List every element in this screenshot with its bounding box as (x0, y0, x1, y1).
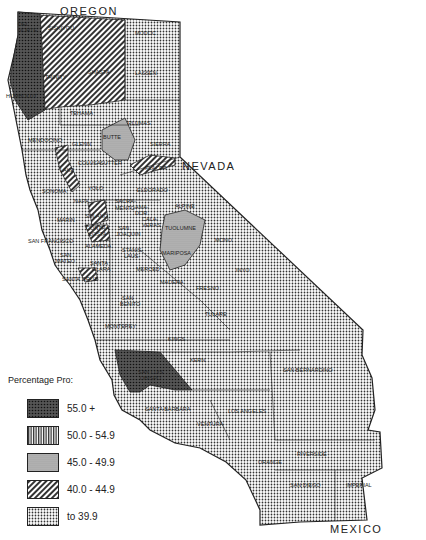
svg-text:SAN BERNARDINO: SAN BERNARDINO (283, 367, 333, 373)
swatch-dense-icon (27, 399, 59, 418)
swatch-vertical-lines-icon (27, 426, 59, 445)
svg-text:MENDOCINO: MENDOCINO (28, 137, 63, 143)
swatch-fine-gray-icon (27, 453, 59, 472)
svg-text:SAN DIEGO: SAN DIEGO (290, 482, 321, 488)
svg-text:LAUS: LAUS (124, 253, 139, 259)
svg-text:MARIPOSA: MARIPOSA (162, 250, 191, 256)
svg-text:CRUZ: CRUZ (82, 276, 98, 282)
svg-text:MARIN: MARIN (57, 217, 75, 223)
svg-text:NAPA: NAPA (74, 198, 89, 204)
svg-text:SHASTA: SHASTA (88, 69, 110, 75)
svg-text:GLENN: GLENN (72, 141, 91, 147)
svg-text:VENTURA: VENTURA (197, 421, 224, 427)
nevada-label: NEVADA (182, 160, 235, 172)
svg-text:COSTA: COSTA (88, 231, 107, 237)
svg-text:MATEO: MATEO (56, 258, 76, 264)
legend-title: Percentage Pro: (8, 375, 168, 385)
svg-text:SISKIYOU: SISKIYOU (48, 25, 74, 31)
svg-text:LASSEN: LASSEN (135, 70, 157, 76)
svg-text:ORANGE: ORANGE (258, 459, 282, 465)
legend: Percentage Pro: 55.0 + 50.0 - 54.9 45.0 … (8, 375, 168, 530)
svg-text:LOS ANGELES: LOS ANGELES (228, 408, 267, 414)
svg-text:BENITO: BENITO (120, 301, 141, 307)
legend-item-55-plus: 55.0 + (27, 395, 168, 422)
svg-text:ELDORADO: ELDORADO (137, 187, 169, 193)
oregon-label: OREGON (60, 5, 118, 17)
svg-text:BUTTE: BUTTE (103, 134, 121, 140)
legend-label: 55.0 + (67, 403, 95, 414)
svg-text:MONTEREY: MONTEREY (105, 323, 137, 329)
svg-text:TULARE: TULARE (205, 311, 227, 317)
legend-label: 50.0 - 54.9 (67, 430, 115, 441)
svg-text:MERCED: MERCED (136, 266, 160, 272)
legend-item-40-44: 40.0 - 44.9 (27, 476, 168, 503)
svg-text:PLUMAS: PLUMAS (128, 120, 151, 126)
svg-text:SIERRA: SIERRA (150, 141, 171, 147)
svg-text:LAKE: LAKE (60, 167, 74, 173)
svg-text:COLUSA: COLUSA (78, 160, 101, 166)
legend-label: 40.0 - 44.9 (67, 484, 115, 495)
svg-text:TUOLUMNE: TUOLUMNE (165, 225, 196, 231)
svg-text:YOLO: YOLO (88, 185, 104, 191)
svg-text:SOLANO: SOLANO (85, 213, 109, 219)
legend-item-to-39: to 39.9 (27, 503, 168, 530)
svg-text:MONO: MONO (215, 237, 233, 243)
svg-text:FRESNO: FRESNO (196, 285, 220, 291)
svg-text:IMPERIAL: IMPERIAL (346, 482, 372, 488)
svg-text:PLACER: PLACER (145, 165, 167, 171)
svg-text:NORTE: NORTE (18, 27, 37, 33)
svg-text:INYO: INYO (236, 267, 250, 273)
svg-text:MADERA: MADERA (160, 279, 184, 285)
svg-text:MODOC: MODOC (135, 30, 156, 36)
svg-text:MENTO: MENTO (115, 205, 135, 211)
svg-text:SANTA: SANTA (62, 276, 80, 282)
svg-text:KINGS: KINGS (168, 336, 185, 342)
svg-text:ALAMEDA: ALAMEDA (85, 243, 112, 249)
svg-text:KERN: KERN (190, 357, 205, 363)
legend-item-50-54: 50.0 - 54.9 (27, 422, 168, 449)
legend-label: 45.0 - 49.9 (67, 457, 115, 468)
svg-text:HUMBOLDT: HUMBOLDT (6, 93, 38, 99)
svg-text:TEHAMA: TEHAMA (70, 110, 93, 116)
swatch-dots-icon (27, 507, 59, 526)
svg-text:SUTTER: SUTTER (100, 160, 122, 166)
svg-text:ALPINE: ALPINE (175, 203, 195, 209)
svg-text:VERAS: VERAS (142, 222, 161, 228)
legend-item-45-49: 45.0 - 49.9 (27, 449, 168, 476)
legend-label: to 39.9 (67, 511, 98, 522)
svg-text:SAN FRANCISCO: SAN FRANCISCO (28, 238, 74, 244)
svg-text:TRINITY: TRINITY (45, 74, 67, 80)
svg-text:RIVERSIDE: RIVERSIDE (297, 451, 327, 457)
svg-text:CLARA: CLARA (92, 266, 111, 272)
svg-text:SONOMA: SONOMA (42, 188, 67, 194)
mexico-label: MEXICO (330, 523, 382, 535)
svg-text:JOAQUIN: JOAQUIN (116, 231, 140, 237)
svg-text:SACRA-: SACRA- (115, 198, 136, 204)
swatch-diagonal-lines-icon (27, 480, 59, 499)
